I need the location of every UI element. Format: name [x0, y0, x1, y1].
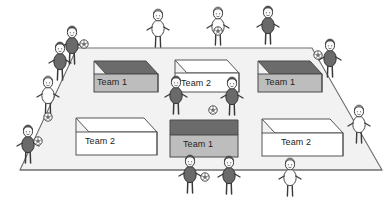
- box-front-face: [76, 132, 157, 155]
- box-top-face: [76, 118, 157, 132]
- box-top-face: [94, 61, 158, 74]
- box-bottom-left: [76, 118, 157, 155]
- ball-icon: [214, 27, 222, 35]
- box-top-face: [170, 120, 238, 135]
- box-front-face: [258, 74, 322, 92]
- ball-icon: [201, 173, 209, 181]
- box-bottom-center: [170, 120, 238, 157]
- box-top-left: [94, 61, 158, 92]
- ball-icon: [34, 137, 42, 145]
- illustration-scene: Team 1 Team 2 Team 1 Team 2 Team 1 Team …: [0, 0, 389, 212]
- box-front-face: [170, 135, 238, 157]
- figure-top-center: [207, 7, 229, 45]
- scene-canvas: [0, 0, 389, 212]
- figure-top-right: [257, 6, 279, 44]
- box-top-face: [258, 61, 322, 74]
- ball-icon: [80, 40, 88, 48]
- ball-icon: [314, 51, 322, 59]
- box-top-face: [262, 119, 343, 133]
- figure-top-left: [147, 9, 169, 47]
- box-top-face: [175, 60, 239, 73]
- ball-icon: [209, 106, 217, 114]
- box-front-face: [262, 133, 343, 156]
- box-bottom-right: [262, 119, 343, 156]
- box-top-right: [258, 61, 322, 92]
- box-front-face: [94, 74, 158, 92]
- ball-icon: [44, 113, 52, 121]
